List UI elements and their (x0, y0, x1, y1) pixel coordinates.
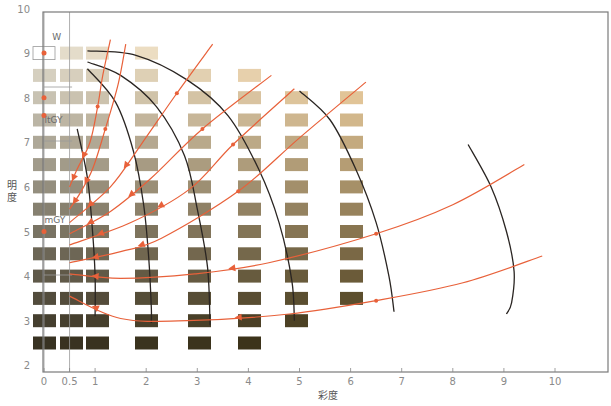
color-swatch (86, 158, 109, 171)
color-swatch (340, 270, 363, 283)
annotation-label: W (52, 32, 61, 42)
color-swatch (340, 292, 363, 305)
color-swatch (60, 337, 83, 350)
color-swatch (285, 225, 308, 238)
y-tick-label: 8 (24, 93, 30, 104)
tone-point (42, 51, 47, 56)
color-swatch (238, 270, 261, 283)
color-swatch (238, 337, 261, 350)
color-swatch (188, 158, 211, 171)
arrow-head-icon (157, 201, 165, 208)
y-tick-label: 2 (24, 360, 30, 371)
color-swatch (188, 225, 211, 238)
color-swatch (285, 91, 308, 104)
arrow-head-icon (128, 190, 136, 197)
color-swatch (135, 69, 158, 82)
x-tick-label: 7 (399, 376, 405, 387)
x-tick-label: 10 (549, 376, 562, 387)
color-swatch (60, 292, 83, 305)
x-tick-label: 9 (501, 376, 507, 387)
x-tick-label: 0 (41, 376, 47, 387)
color-swatch (33, 203, 56, 216)
color-swatch (33, 158, 56, 171)
trend-line (70, 256, 543, 321)
color-swatch (135, 47, 158, 60)
color-swatch (188, 136, 211, 149)
intersection-dot (374, 232, 378, 236)
contour-line (468, 145, 514, 314)
color-swatch (340, 247, 363, 260)
intersection-dot (175, 91, 179, 95)
arrow-head-icon (138, 240, 146, 247)
annotations: WltGYmGY (45, 32, 66, 225)
color-swatch (60, 114, 83, 127)
annotation-label: mGY (45, 215, 66, 225)
y-tick-label: 4 (24, 271, 30, 282)
y-axis-title-char1: 明 (7, 180, 17, 191)
color-swatch (86, 47, 109, 60)
color-swatch (188, 337, 211, 350)
x-tick-label: 2 (143, 376, 149, 387)
color-swatch (135, 91, 158, 104)
y-axis-title-char2: 度 (7, 191, 17, 203)
color-swatch (86, 91, 109, 104)
color-swatch (60, 247, 83, 260)
color-swatch (60, 314, 83, 327)
color-swatch (285, 180, 308, 193)
x-tick-label: 8 (450, 376, 456, 387)
color-swatch (285, 114, 308, 127)
color-swatch (135, 158, 158, 171)
color-swatch (238, 225, 261, 238)
y-tick-label: 3 (24, 316, 30, 327)
color-swatch (188, 69, 211, 82)
color-swatch (340, 91, 363, 104)
intersection-dot (231, 143, 235, 147)
color-swatch (285, 158, 308, 171)
color-swatch (238, 158, 261, 171)
color-swatch (340, 203, 363, 216)
intersection-dot (236, 189, 240, 193)
color-swatch (60, 47, 83, 60)
intersection-dot (200, 127, 204, 131)
tone-point (42, 229, 47, 234)
x-axis-ticks: 00.512345678910 (41, 368, 562, 387)
color-swatch (135, 337, 158, 350)
color-swatch (86, 337, 109, 350)
annotation-label: ltGY (45, 115, 64, 125)
color-swatch (33, 270, 56, 283)
color-swatch (340, 114, 363, 127)
arrow-head-icon (82, 151, 88, 159)
y-tick-label: 9 (24, 48, 30, 59)
color-swatch (60, 69, 83, 82)
y-tick-label: 6 (24, 182, 30, 193)
color-swatch (33, 247, 56, 260)
x-tick-label: 6 (347, 376, 353, 387)
color-swatch (285, 292, 308, 305)
color-swatch (238, 292, 261, 305)
color-swatch (86, 292, 109, 305)
color-swatch (340, 180, 363, 193)
color-swatch (135, 292, 158, 305)
color-swatch (285, 314, 308, 327)
color-swatch (60, 270, 83, 283)
color-swatch (33, 314, 56, 327)
x-tick-label: 4 (245, 376, 251, 387)
plot-frame (43, 12, 608, 372)
color-swatch (86, 114, 109, 127)
color-swatch (188, 247, 211, 260)
color-swatch (86, 314, 109, 327)
color-swatch (33, 69, 56, 82)
color-swatch (188, 91, 211, 104)
intersection-dot (96, 105, 100, 109)
color-swatch (238, 69, 261, 82)
color-swatch (238, 114, 261, 127)
color-swatch (238, 203, 261, 216)
color-swatch (285, 203, 308, 216)
color-swatch (135, 247, 158, 260)
color-swatch (285, 270, 308, 283)
x-tick-label: 0.5 (62, 376, 78, 387)
color-swatch (33, 337, 56, 350)
y-tick-label: 5 (24, 227, 30, 238)
x-tick-label: 1 (92, 376, 98, 387)
intersection-dot (374, 299, 378, 303)
